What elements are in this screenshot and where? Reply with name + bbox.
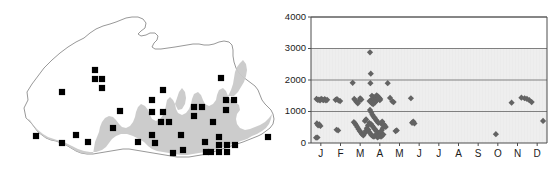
map-locality-marker — [117, 108, 123, 114]
x-tick-label: O — [494, 148, 502, 159]
y-axis-ticks: 01000200030004000 — [285, 11, 311, 148]
map-locality-marker — [231, 97, 237, 103]
x-tick-label: S — [475, 148, 482, 159]
y-tick-label: 4000 — [285, 11, 306, 22]
x-tick-label: N — [514, 148, 521, 159]
map-locality-marker — [203, 149, 209, 155]
map-locality-marker — [99, 76, 105, 82]
x-tick-label: F — [337, 148, 343, 159]
map-locality-marker — [199, 104, 205, 110]
x-tick-label: A — [455, 148, 462, 159]
map-locality-marker — [135, 139, 141, 145]
y-tick-label: 0 — [301, 137, 306, 148]
map-locality-marker — [99, 85, 105, 91]
map-locality-marker — [202, 139, 208, 145]
bhutan-map — [0, 0, 290, 170]
map-locality-marker — [92, 76, 98, 82]
map-locality-marker — [180, 147, 186, 153]
map-locality-marker — [59, 89, 65, 95]
map-locality-marker — [223, 97, 229, 103]
map-locality-marker — [158, 119, 164, 125]
map-locality-marker — [33, 133, 39, 139]
figure-root: 01000200030004000 JFMAMJJASOND — [0, 0, 550, 170]
chart-panel: 01000200030004000 JFMAMJJASOND — [283, 0, 550, 170]
map-locality-marker — [92, 67, 98, 73]
map-locality-marker — [170, 150, 176, 156]
map-locality-marker — [160, 87, 166, 93]
map-locality-marker — [224, 149, 230, 155]
map-locality-marker — [191, 113, 197, 119]
map-locality-marker — [265, 134, 271, 140]
y-tick-label: 2000 — [285, 74, 306, 85]
map-locality-marker — [216, 149, 222, 155]
map-locality-marker — [149, 97, 155, 103]
x-tick-label: M — [395, 148, 403, 159]
map-locality-marker — [216, 142, 222, 148]
map-locality-marker — [152, 140, 158, 146]
y-tick-label: 1000 — [285, 105, 306, 116]
map-locality-marker — [85, 139, 91, 145]
map-locality-marker — [149, 132, 155, 138]
x-axis-ticks: JFMAMJJASOND — [318, 143, 540, 159]
x-tick-label: A — [376, 148, 383, 159]
x-tick-label: D — [534, 148, 541, 159]
map-locality-marker — [216, 134, 222, 140]
map-locality-marker — [73, 132, 79, 138]
map-locality-marker — [110, 125, 116, 131]
map-locality-marker — [178, 132, 184, 138]
map-locality-marker — [218, 75, 224, 81]
x-tick-label: J — [436, 148, 441, 159]
map-locality-marker — [166, 119, 172, 125]
map-locality-marker — [223, 107, 229, 113]
map-locality-marker — [224, 142, 230, 148]
map-locality-marker — [191, 104, 197, 110]
map-locality-marker — [210, 119, 216, 125]
x-tick-label: J — [318, 148, 323, 159]
y-tick-label: 3000 — [285, 42, 306, 53]
plot-bg-lower — [311, 49, 547, 144]
x-tick-label: M — [356, 148, 364, 159]
map-locality-marker — [59, 140, 65, 146]
map-locality-marker — [232, 142, 238, 148]
map-panel — [0, 0, 290, 170]
x-tick-label: J — [417, 148, 422, 159]
map-locality-marker — [160, 109, 166, 115]
map-locality-marker — [149, 109, 155, 115]
elevation-month-scatter: 01000200030004000 JFMAMJJASOND — [283, 0, 550, 170]
